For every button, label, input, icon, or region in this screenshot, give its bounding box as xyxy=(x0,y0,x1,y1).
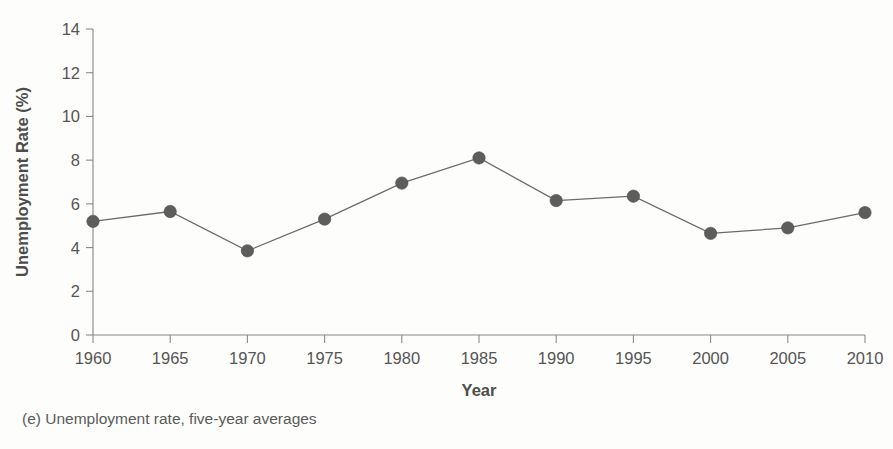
y-axis-title: Unemployment Rate (%) xyxy=(13,87,31,277)
data-point-marker: 2005: 4.9 xyxy=(782,222,794,234)
data-point-marker: 1990: 6.15 xyxy=(550,194,562,206)
x-tick-label: 2005 xyxy=(769,349,806,367)
y-tick-label: 0 xyxy=(71,326,80,344)
x-tick-label: 2000 xyxy=(692,349,729,367)
x-tick-label: 1975 xyxy=(306,349,343,367)
y-tick-label: 12 xyxy=(62,64,80,82)
data-point-marker: 1965: 5.65 xyxy=(164,205,176,217)
line-chart: 02468101214 1960196519701975198019851990… xyxy=(0,0,893,449)
x-tick-label: 1995 xyxy=(615,349,652,367)
x-tick-label: 1965 xyxy=(152,349,189,367)
x-tick-label: 2010 xyxy=(847,349,884,367)
x-tick-label: 1980 xyxy=(383,349,420,367)
y-tick-label: 2 xyxy=(71,282,80,300)
data-point-marker: 1995: 6.35 xyxy=(627,190,639,202)
x-tick-label: 1985 xyxy=(461,349,498,367)
x-axis: 1960196519701975198019851990199520002005… xyxy=(75,335,884,367)
data-series-unemployment-rate: 1960: 5.21965: 5.651970: 3.851975: 5.319… xyxy=(87,152,871,257)
data-point-marker: 1985: 8.1 xyxy=(473,152,485,164)
y-tick-label: 10 xyxy=(62,107,80,125)
x-tick-label: 1960 xyxy=(75,349,112,367)
y-tick-label: 8 xyxy=(71,151,80,169)
y-tick-label: 6 xyxy=(71,195,80,213)
data-point-marker: 1960: 5.2 xyxy=(87,215,99,227)
x-tick-label: 1990 xyxy=(538,349,575,367)
figure-caption: (e) Unemployment rate, five-year average… xyxy=(22,410,317,428)
data-point-marker: 1975: 5.3 xyxy=(318,213,330,225)
y-tick-label: 4 xyxy=(71,239,80,257)
series-polyline xyxy=(93,158,865,251)
y-axis: 02468101214 xyxy=(62,20,93,344)
data-point-marker: 2000: 4.65 xyxy=(704,227,716,239)
x-axis-title: Year xyxy=(462,381,497,399)
data-point-marker: 1980: 6.95 xyxy=(396,177,408,189)
figure-container: 02468101214 1960196519701975198019851990… xyxy=(0,0,893,449)
y-tick-label: 14 xyxy=(62,20,80,38)
data-point-marker: 2010: 5.6 xyxy=(859,206,871,218)
data-point-marker: 1970: 3.85 xyxy=(241,245,253,257)
x-tick-label: 1970 xyxy=(229,349,266,367)
